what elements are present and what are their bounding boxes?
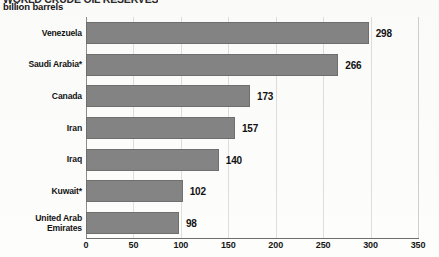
bar bbox=[86, 54, 338, 76]
bar-row: 98 bbox=[86, 212, 418, 234]
x-tick-label-0: 0 bbox=[84, 240, 89, 250]
category-label: Venezuela bbox=[2, 28, 82, 39]
x-tick-label-250: 250 bbox=[316, 240, 331, 250]
x-tick-label-350: 350 bbox=[411, 240, 426, 250]
plot-area: 29826617315714010298 bbox=[86, 17, 418, 239]
category-label: Iran bbox=[2, 123, 82, 134]
x-tick-label-50: 50 bbox=[129, 240, 139, 250]
gridline-350 bbox=[418, 17, 419, 239]
bar-value-label: 298 bbox=[376, 27, 392, 38]
chart-subtitle-units: billion barrels bbox=[3, 1, 63, 12]
bar-row: 140 bbox=[86, 149, 418, 171]
bar-value-label: 173 bbox=[257, 91, 273, 102]
bar bbox=[86, 117, 235, 139]
bar bbox=[86, 149, 219, 171]
x-tick-label-300: 300 bbox=[363, 240, 378, 250]
category-label: Iraq bbox=[2, 154, 82, 165]
x-tick-label-150: 150 bbox=[221, 240, 236, 250]
bar-value-label: 140 bbox=[226, 154, 242, 165]
bar bbox=[86, 85, 250, 107]
bar-row: 102 bbox=[86, 180, 418, 202]
category-label: Canada bbox=[2, 91, 82, 102]
x-axis-tick-labels: 050100150200250300350 bbox=[86, 240, 418, 254]
bar-value-label: 157 bbox=[242, 123, 258, 134]
category-label: Kuwait* bbox=[2, 186, 82, 197]
bar bbox=[86, 180, 183, 202]
bar bbox=[86, 22, 369, 44]
bar-row: 173 bbox=[86, 85, 418, 107]
bar-row: 298 bbox=[86, 22, 418, 44]
category-axis-labels: VenezuelaSaudi Arabia*CanadaIranIraqKuwa… bbox=[0, 17, 82, 239]
category-label: Saudi Arabia* bbox=[2, 59, 82, 70]
x-tick-label-200: 200 bbox=[268, 240, 283, 250]
bar-value-label: 98 bbox=[186, 218, 197, 229]
category-label: United Arab Emirates bbox=[2, 213, 82, 234]
bar-row: 266 bbox=[86, 54, 418, 76]
bar-value-label: 266 bbox=[345, 59, 361, 70]
bar bbox=[86, 212, 179, 234]
x-axis-baseline bbox=[86, 238, 419, 239]
x-tick-label-100: 100 bbox=[173, 240, 188, 250]
bar-row: 157 bbox=[86, 117, 418, 139]
bar-value-label: 102 bbox=[190, 186, 206, 197]
